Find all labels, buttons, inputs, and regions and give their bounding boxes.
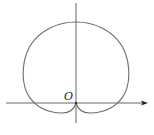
cardioid-diagram [0,0,154,135]
origin-point [75,102,77,104]
origin-label: O [64,91,73,102]
